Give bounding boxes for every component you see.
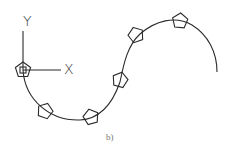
pentagon-marker-icon [15, 62, 30, 77]
x-axis-label: X [64, 61, 74, 77]
pentagon-marker-icon [111, 70, 129, 88]
y-axis-label: Y [23, 13, 32, 29]
pentagon-marker-icon [126, 25, 145, 44]
pentagon-marker-icon [172, 12, 188, 28]
diagram-canvas: Y X b) [0, 0, 226, 150]
curve-diagram [0, 0, 226, 150]
pentagon-marker-icon [82, 107, 100, 125]
lower-arc [23, 70, 120, 120]
figure-caption: b) [106, 132, 114, 142]
